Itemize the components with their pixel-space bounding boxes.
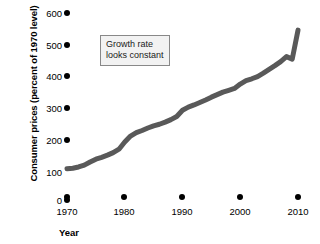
chart-container: Consumer prices (percent of 1970 level) …	[0, 0, 320, 244]
annotation-line-1: Growth rate	[106, 39, 164, 50]
annotation-callout: Growth rate looks constant	[100, 35, 170, 66]
annotation-line-2: looks constant	[106, 50, 164, 61]
